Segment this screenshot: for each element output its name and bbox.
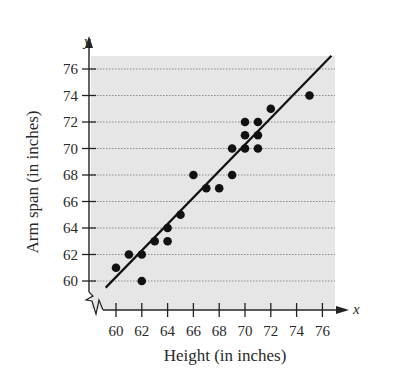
x-tick-label: 76: [315, 323, 331, 339]
x-tick-label: 64: [160, 323, 176, 339]
data-point: [163, 237, 172, 246]
y-tick-label: 60: [63, 273, 78, 289]
x-tick-label: 70: [238, 323, 253, 339]
y-tick-label: 68: [63, 167, 78, 183]
x-tick-label: 74: [289, 323, 305, 339]
plot-area: [91, 56, 335, 309]
x-axis-arrow-icon: [336, 306, 349, 314]
data-point: [241, 144, 250, 153]
data-point: [138, 250, 147, 259]
y-tick-label: 74: [63, 88, 79, 104]
y-tick-label: 62: [63, 247, 78, 263]
y-tick-label: 76: [63, 61, 79, 77]
data-point: [228, 144, 237, 153]
data-point: [176, 210, 185, 219]
x-tick-label: 60: [109, 323, 124, 339]
y-tick-label: 64: [63, 220, 79, 236]
data-point: [163, 224, 172, 233]
data-point: [202, 184, 211, 193]
data-point: [254, 118, 263, 127]
y-axis-ticks: 606264666870727476: [63, 61, 96, 289]
data-point: [215, 184, 224, 193]
data-point: [189, 171, 198, 180]
y-axis-variable: y: [82, 33, 91, 49]
x-axis-variable: x: [352, 301, 360, 317]
data-point: [267, 104, 276, 113]
data-point: [228, 171, 237, 180]
scatter-chart: 606264666870727476 606264666870727476 x …: [0, 0, 393, 371]
data-point: [305, 91, 314, 100]
data-point: [254, 144, 263, 153]
data-point: [125, 250, 134, 259]
data-point: [254, 131, 263, 140]
x-tick-label: 68: [212, 323, 227, 339]
x-tick-label: 62: [134, 323, 149, 339]
y-axis-title: Arm span (in inches): [23, 110, 42, 253]
x-axis-title: Height (in inches): [164, 346, 287, 365]
x-tick-label: 72: [263, 323, 278, 339]
x-axis-ticks: 606264666870727476: [109, 303, 331, 339]
data-point: [138, 277, 147, 286]
x-tick-label: 66: [186, 323, 202, 339]
data-point: [241, 131, 250, 140]
data-point: [112, 263, 121, 272]
y-tick-label: 70: [63, 141, 78, 157]
y-tick-label: 66: [63, 194, 79, 210]
y-tick-label: 72: [63, 114, 78, 130]
data-point: [241, 118, 250, 127]
data-point: [150, 237, 159, 246]
